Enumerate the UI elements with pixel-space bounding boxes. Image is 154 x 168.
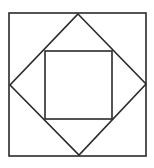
inner-square	[45, 51, 112, 119]
nested-squares-diagram	[0, 0, 154, 168]
diamond	[10, 14, 146, 155]
outer-square	[9, 13, 146, 156]
